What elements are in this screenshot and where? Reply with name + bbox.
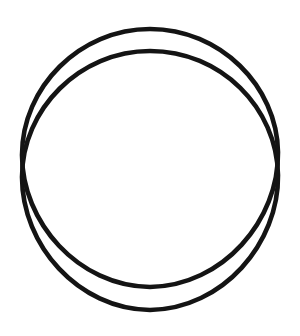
drawing-canvas <box>0 0 300 336</box>
drawing-svg <box>0 0 300 336</box>
